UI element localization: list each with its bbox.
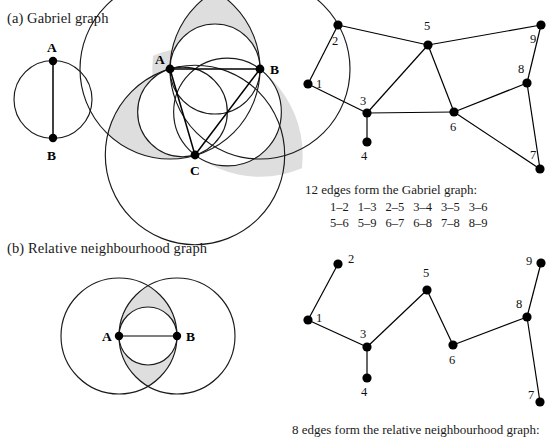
edge-list-cell: 6–8 (413, 216, 441, 232)
rng-node-5 (422, 285, 431, 294)
rng-edge-3-5 (367, 290, 427, 347)
gabriel-lune-shading (87, 0, 350, 263)
gabriel-edge-list: 1–21–32–53–43–53–65–65–96–76–87–88–9 (330, 200, 497, 232)
gabriel-node-1 (303, 79, 312, 88)
rng-node-9 (536, 258, 545, 267)
rng-node-label-1: 1 (316, 311, 322, 325)
rng-node-7 (535, 397, 544, 406)
rng-node-label-6: 6 (449, 353, 455, 367)
edge-list-cell: 2–5 (386, 200, 414, 216)
rng-node-label-9: 9 (526, 254, 532, 268)
gabriel-edge-2-5 (338, 25, 428, 45)
rng-node-8 (522, 312, 531, 321)
rng-node-label-4: 4 (361, 385, 368, 399)
gabriel-node-4 (362, 137, 371, 146)
gabriel-edge-6-7 (454, 112, 540, 169)
point-label-B: B (47, 148, 56, 163)
rng-graph: 123456789 (303, 252, 545, 407)
edge-list-cell: 1–2 (330, 200, 358, 216)
gabriel-edge-6-8 (454, 83, 527, 112)
gabriel-node-label-5: 5 (424, 19, 430, 33)
rng-node-label-2: 2 (348, 252, 354, 266)
gabriel-node-9 (536, 20, 545, 29)
rng-point-label-A: A (102, 329, 112, 344)
rng-node-1 (303, 315, 312, 324)
rng-edge-8-9 (527, 263, 541, 317)
rng-lune-diagram: A B (61, 278, 235, 394)
rng-point-A (115, 332, 123, 340)
gabriel-node-8 (522, 78, 531, 87)
gabriel-caption: 12 edges form the Gabriel graph: (305, 182, 477, 198)
rng-edge-5-6 (427, 290, 453, 345)
rng-edge-6-8 (453, 317, 527, 345)
edge-list-cell: 1–3 (358, 200, 386, 216)
rng-node-4 (362, 373, 371, 382)
point-label-A: A (47, 40, 57, 55)
point-label-B-triangle: B (270, 62, 279, 77)
gabriel-edge-3-6 (367, 112, 454, 113)
gabriel-node-label-1: 1 (316, 77, 322, 91)
gabriel-node-label-7: 7 (530, 148, 536, 162)
point-label-C-triangle: C (190, 163, 200, 178)
rng-point-label-B: B (186, 329, 195, 344)
gabriel-node-6 (449, 107, 458, 116)
gabriel-node-5 (423, 40, 432, 49)
point-C-triangle (191, 151, 200, 160)
figure-root: (a) Gabriel graph (b) Relative neighbour… (0, 0, 553, 447)
rng-node-label-8: 8 (516, 297, 522, 311)
gabriel-edge-5-6 (428, 45, 454, 112)
edge-list-cell: 5–6 (330, 216, 358, 232)
point-label-A-triangle: A (155, 52, 165, 67)
gabriel-node-label-8: 8 (518, 62, 524, 76)
gabriel-node-label-2: 2 (332, 34, 338, 48)
rng-node-2 (333, 259, 342, 268)
edge-list-cell: 3–4 (413, 200, 441, 216)
gabriel-node-label-9: 9 (530, 32, 536, 46)
gabriel-node-7 (535, 164, 544, 173)
edge-list-row: 5–65–96–76–87–88–9 (330, 216, 497, 232)
gabriel-graph: 123456789 (303, 19, 545, 174)
edge-list-cell: 5–9 (358, 216, 386, 232)
gabriel-node-2 (333, 20, 342, 29)
rng-node-label-3: 3 (360, 327, 366, 341)
gabriel-node-label-4: 4 (361, 149, 368, 163)
gabriel-triangle-diagram: A B C (80, 0, 350, 263)
gabriel-node-3 (362, 108, 371, 117)
point-A (49, 57, 57, 65)
gabriel-edge-5-9 (428, 25, 541, 45)
point-B-triangle (256, 65, 265, 74)
point-A-triangle (166, 65, 175, 74)
rng-node-label-7: 7 (528, 388, 534, 402)
gabriel-node-label-3: 3 (360, 94, 366, 108)
rng-caption: 8 edges form the relative neighbourhood … (292, 422, 540, 438)
edge-list-cell: 7–8 (441, 216, 469, 232)
rng-edge-1-2 (308, 264, 338, 320)
gabriel-node-label-6: 6 (450, 120, 456, 134)
rng-node-3 (362, 342, 371, 351)
rng-node-label-5: 5 (423, 266, 429, 280)
edge-list-cell: 8–9 (469, 216, 497, 232)
gabriel-edge-3-5 (367, 45, 428, 113)
rng-point-B (173, 332, 181, 340)
edge-list-cell: 3–6 (469, 200, 497, 216)
point-B (49, 134, 57, 142)
rng-node-6 (448, 340, 457, 349)
edge-list-row: 1–21–32–53–43–53–6 (330, 200, 497, 216)
edge-list-cell: 3–5 (441, 200, 469, 216)
edge-list-cell: 6–7 (386, 216, 414, 232)
